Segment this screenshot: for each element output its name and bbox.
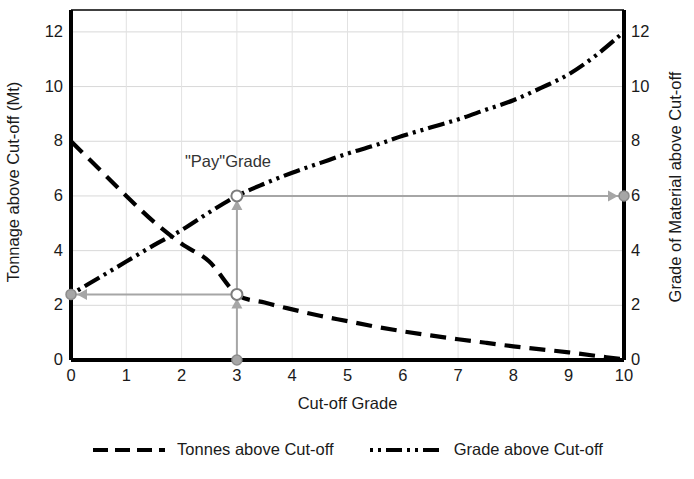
x-tick-6: 6	[386, 366, 420, 385]
y-right-tick-8: 8	[631, 131, 665, 150]
chart-legend: Tonnes above Cut-off Grade above Cut-off	[0, 440, 694, 459]
x-tick-10: 10	[607, 366, 641, 385]
y-left-tick-6: 6	[29, 186, 63, 205]
pay-grade-label: "Pay"Grade	[185, 152, 271, 171]
legend-swatch-dashed	[91, 443, 167, 457]
x-tick-2: 2	[165, 366, 199, 385]
legend-label-grade: Grade above Cut-off	[454, 440, 603, 459]
x-tick-4: 4	[275, 366, 309, 385]
x-tick-5: 5	[331, 366, 365, 385]
y-left-tick-2: 2	[29, 295, 63, 314]
y-left-tick-4: 4	[29, 241, 63, 260]
y-right-tick-6: 6	[631, 186, 665, 205]
gridlines	[71, 10, 624, 360]
x-tick-1: 1	[109, 366, 143, 385]
y-left-tick-12: 12	[29, 22, 63, 41]
legend-entry-grade: Grade above Cut-off	[368, 440, 603, 459]
legend-entry-tonnes: Tonnes above Cut-off	[91, 440, 334, 459]
legend-label-tonnes: Tonnes above Cut-off	[177, 440, 334, 459]
chart-figure: Tonnage above Cut-off (Mt) Grade of Mate…	[0, 0, 694, 479]
y-left-tick-10: 10	[29, 77, 63, 96]
x-tick-7: 7	[441, 366, 475, 385]
x-tick-8: 8	[496, 366, 530, 385]
x-tick-3: 3	[220, 366, 254, 385]
x-tick-9: 9	[552, 366, 586, 385]
y-right-tick-12: 12	[631, 22, 665, 41]
x-tick-0: 0	[54, 366, 88, 385]
y-right-tick-2: 2	[631, 295, 665, 314]
y-axis-right-title: Grade of Material above Cut-off	[666, 2, 694, 372]
legend-swatch-dash-dot-dot	[368, 443, 444, 457]
x-axis-title: Cut-off Grade	[71, 394, 624, 413]
y-right-tick-10: 10	[631, 77, 665, 96]
y-right-tick-4: 4	[631, 241, 665, 260]
y-left-tick-8: 8	[29, 131, 63, 150]
